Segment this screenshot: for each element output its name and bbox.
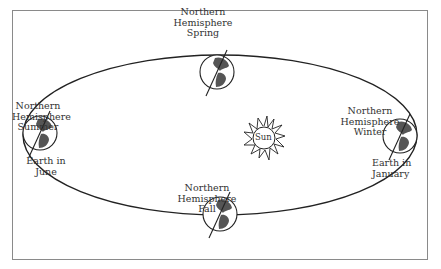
sun-label: Sun <box>255 132 272 142</box>
earth-icon-spring <box>200 50 234 96</box>
summer-season-label: Northern Hemisphere Summer <box>12 101 64 133</box>
fall-season-label: Northern Hemisphere Fall <box>172 183 242 215</box>
winter-month-label: Earth in January <box>372 158 432 179</box>
winter-season-label: Northern Hemisphere Winter <box>340 106 400 138</box>
spring-season-label: Northern Hemisphere Spring <box>168 7 238 39</box>
summer-month-label: Earth in June <box>20 156 72 177</box>
